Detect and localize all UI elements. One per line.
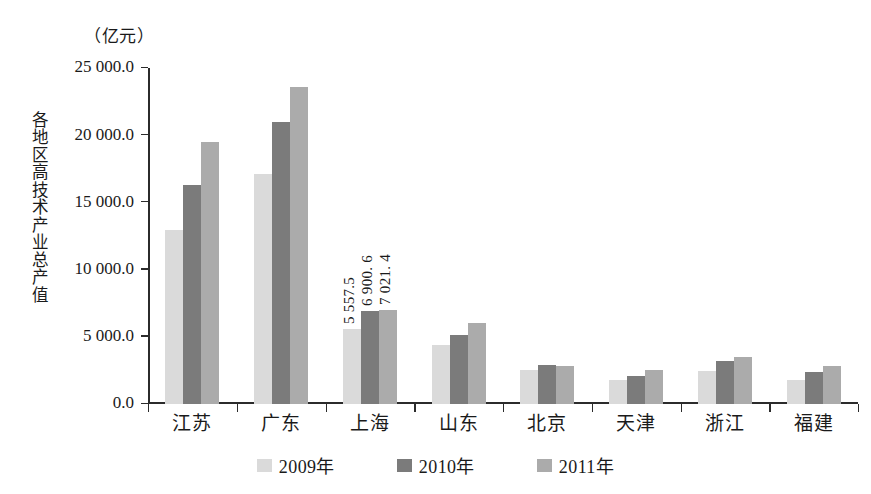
legend-item[interactable]: 2011年 <box>537 452 614 478</box>
y-tick: 20 000.0 <box>141 134 148 135</box>
plot-area: 25 000.020 000.015 000.010 000.05 000.00… <box>148 68 858 404</box>
legend-label: 2009年 <box>279 452 335 478</box>
bar-value-label: 6 900. 6 <box>359 255 376 306</box>
category-label: 福建 <box>771 408 857 435</box>
bar <box>432 345 450 404</box>
y-tick-label: 15 000.0 <box>75 192 135 212</box>
bar <box>609 380 627 404</box>
bar <box>734 357 752 404</box>
y-tick: 25 000.0 <box>141 67 148 68</box>
y-tick: 15 000.0 <box>141 201 148 202</box>
x-tick <box>858 404 859 412</box>
bar <box>361 311 379 404</box>
category-label: 山东 <box>416 408 502 435</box>
category-label: 北京 <box>504 408 590 435</box>
category-label: 天津 <box>593 408 679 435</box>
y-axis-unit-caption: （亿元） <box>84 22 154 47</box>
y-axis-line <box>148 68 150 404</box>
bar <box>290 87 308 404</box>
y-tick: 0.0 <box>141 403 148 404</box>
bar <box>787 380 805 404</box>
legend-swatch <box>257 459 272 472</box>
bar <box>520 370 538 404</box>
bar <box>556 366 574 404</box>
y-tick-label: 5 000.0 <box>83 326 134 346</box>
bar-group <box>787 68 841 404</box>
bar <box>272 122 290 404</box>
y-tick-label: 20 000.0 <box>75 125 135 145</box>
bar-value-label: 7 021. 4 <box>377 253 394 304</box>
bar-value-label: 5 557.5 <box>341 277 358 324</box>
legend-swatch <box>537 459 552 472</box>
legend-label: 2011年 <box>559 452 614 478</box>
bar-group <box>165 68 219 404</box>
bar <box>645 370 663 404</box>
bar-group <box>520 68 574 404</box>
bar <box>254 174 272 404</box>
bar <box>627 376 645 404</box>
y-tick: 10 000.0 <box>141 268 148 269</box>
bar-group <box>609 68 663 404</box>
category-label: 上海 <box>327 408 413 435</box>
bar <box>698 371 716 404</box>
bar <box>823 366 841 404</box>
y-axis-title: 各地区高技术产业总产值 <box>28 112 52 304</box>
bar <box>538 365 556 404</box>
legend-label: 2010年 <box>419 452 475 478</box>
bar <box>379 310 397 404</box>
category-label: 浙江 <box>682 408 768 435</box>
bar-chart: （亿元） 各地区高技术产业总产值 25 000.020 000.015 000.… <box>0 0 871 494</box>
chart-legend: 2009年2010年2011年 <box>0 452 871 478</box>
y-tick-label: 0.0 <box>113 393 134 413</box>
bar-group <box>432 68 486 404</box>
y-tick: 5 000.0 <box>141 335 148 336</box>
legend-item[interactable]: 2009年 <box>257 452 335 478</box>
bar-group <box>343 68 397 404</box>
bar <box>716 361 734 404</box>
category-label: 江苏 <box>149 408 235 435</box>
bar <box>165 230 183 404</box>
bar <box>183 185 201 404</box>
bar <box>343 329 361 404</box>
bar <box>201 142 219 404</box>
bar <box>450 335 468 404</box>
y-tick-label: 25 000.0 <box>75 57 135 77</box>
y-tick-label: 10 000.0 <box>75 259 135 279</box>
category-label: 广东 <box>238 408 324 435</box>
bar-group <box>254 68 308 404</box>
bar <box>805 372 823 404</box>
bar-group <box>698 68 752 404</box>
legend-swatch <box>397 459 412 472</box>
bar <box>468 323 486 404</box>
legend-item[interactable]: 2010年 <box>397 452 475 478</box>
